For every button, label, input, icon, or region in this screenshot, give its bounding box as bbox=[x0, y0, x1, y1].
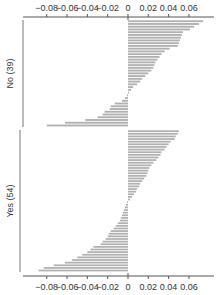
group-label: No (39) bbox=[5, 58, 15, 88]
bottom-x-axis: −0.08−0.06−0.04−0.0200.020.040.06 bbox=[23, 273, 214, 292]
bar bbox=[127, 94, 128, 96]
bar bbox=[124, 209, 128, 211]
group-label: Yes (54) bbox=[5, 184, 15, 217]
bar bbox=[111, 230, 128, 232]
bar bbox=[90, 249, 128, 251]
bar bbox=[128, 180, 142, 182]
bottom-tick-label: 0.06 bbox=[180, 282, 198, 292]
bar bbox=[128, 56, 159, 58]
bar bbox=[128, 40, 180, 42]
bar bbox=[85, 119, 128, 121]
bar-group-yes: Yes (54) bbox=[5, 130, 179, 272]
bar bbox=[128, 45, 178, 47]
bar bbox=[128, 31, 183, 33]
bar bbox=[47, 125, 128, 127]
bar-group-no: No (39) bbox=[5, 20, 203, 127]
bar bbox=[128, 167, 149, 169]
bar bbox=[128, 141, 171, 143]
bar bbox=[128, 26, 194, 28]
bar-groups: No (39)Yes (54) bbox=[5, 20, 203, 272]
bar bbox=[128, 136, 176, 138]
bar bbox=[128, 178, 144, 180]
bar bbox=[114, 228, 128, 230]
bar bbox=[128, 53, 162, 55]
bar bbox=[128, 130, 179, 132]
bar bbox=[125, 207, 128, 209]
bar bbox=[128, 92, 129, 94]
bar bbox=[77, 257, 128, 259]
bar bbox=[128, 29, 190, 31]
bar bbox=[128, 172, 147, 174]
bar bbox=[128, 81, 140, 83]
bar bbox=[128, 61, 155, 63]
bar bbox=[128, 170, 148, 172]
bar bbox=[128, 42, 179, 44]
bar-chart: −0.08−0.06−0.04−0.0200.020.040.06 −0.08−… bbox=[0, 0, 224, 295]
bar bbox=[128, 83, 137, 85]
bar bbox=[105, 111, 128, 113]
bar bbox=[65, 122, 128, 124]
bar bbox=[103, 114, 128, 116]
bar bbox=[128, 183, 140, 185]
bar bbox=[54, 264, 128, 266]
bar bbox=[101, 243, 128, 245]
bar bbox=[111, 105, 128, 107]
bar bbox=[120, 220, 128, 222]
bar bbox=[121, 217, 128, 219]
bar bbox=[128, 50, 165, 52]
bottom-tick-label: 0 bbox=[125, 282, 130, 292]
bar bbox=[128, 138, 175, 140]
bar bbox=[44, 267, 128, 269]
bar bbox=[122, 214, 128, 216]
bottom-tick-label: −0.02 bbox=[96, 282, 119, 292]
bar bbox=[39, 270, 128, 272]
top-tick-label: 0 bbox=[125, 3, 130, 13]
bar bbox=[123, 212, 128, 214]
bottom-tick-label: 0.04 bbox=[160, 282, 178, 292]
bar bbox=[128, 186, 139, 188]
bar bbox=[128, 37, 181, 39]
bar bbox=[128, 64, 154, 66]
top-tick-label: 0.06 bbox=[180, 3, 198, 13]
bar bbox=[109, 233, 128, 235]
top-tick-label: −0.02 bbox=[96, 3, 119, 13]
bar bbox=[128, 157, 158, 159]
bar bbox=[128, 133, 178, 135]
bar bbox=[128, 175, 146, 177]
bar bbox=[128, 199, 130, 201]
bar bbox=[128, 146, 167, 148]
bar bbox=[87, 251, 128, 253]
bar bbox=[125, 97, 128, 99]
bar bbox=[128, 70, 151, 72]
bar bbox=[128, 72, 148, 74]
bar bbox=[128, 20, 203, 22]
bar bbox=[128, 23, 199, 25]
bar bbox=[110, 108, 128, 110]
bar bbox=[128, 48, 170, 50]
bar bbox=[128, 89, 131, 91]
bar bbox=[98, 116, 128, 118]
bar bbox=[128, 149, 165, 151]
bar bbox=[128, 143, 169, 145]
top-tick-label: 0.02 bbox=[140, 3, 158, 13]
bar bbox=[118, 222, 128, 224]
bar bbox=[93, 246, 128, 248]
bar bbox=[128, 75, 145, 77]
bar bbox=[126, 204, 128, 206]
bar bbox=[128, 196, 132, 198]
bar bbox=[115, 103, 128, 105]
bar bbox=[128, 86, 133, 88]
bar bbox=[128, 164, 151, 166]
bar bbox=[82, 254, 128, 256]
bar bbox=[127, 201, 128, 203]
bar bbox=[128, 34, 182, 36]
bar bbox=[128, 188, 137, 190]
bar bbox=[128, 191, 136, 193]
bar bbox=[108, 235, 128, 237]
bar bbox=[128, 67, 153, 69]
bottom-tick-label: 0.02 bbox=[140, 282, 158, 292]
bar bbox=[128, 154, 161, 156]
bar bbox=[103, 241, 128, 243]
top-x-axis: −0.08−0.06−0.04−0.0200.020.040.06 bbox=[23, 3, 214, 20]
bar bbox=[72, 259, 128, 261]
